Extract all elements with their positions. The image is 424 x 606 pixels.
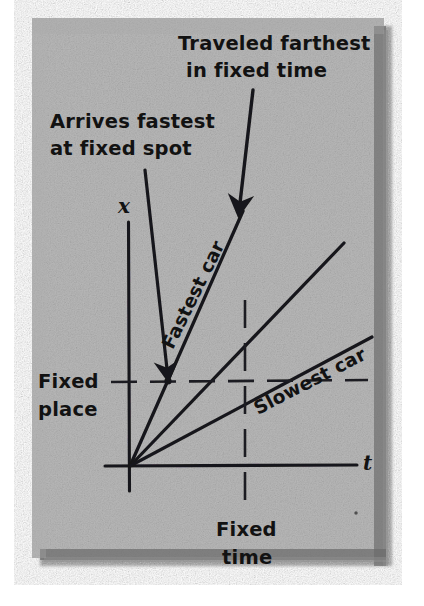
fixed-place-label-line2: place — [38, 398, 98, 421]
annotation-arrives-fastest-line2: at fixed spot — [50, 137, 192, 160]
arrival-point-marker — [164, 377, 171, 384]
fixed-time-label-line1: Fixed — [216, 518, 277, 541]
figure-root: Traveled farthest in fixed time Arrives … — [0, 0, 424, 606]
annotation-traveled-farthest-line2: in fixed time — [186, 59, 327, 82]
x-axis-label: x — [117, 194, 131, 218]
t-axis-line — [105, 465, 357, 466]
x-axis-line — [129, 222, 130, 491]
t-axis-label: t — [363, 451, 373, 475]
scan-speck — [354, 511, 357, 514]
scanned-sheet — [32, 18, 388, 566]
annotation-traveled-farthest-line1: Traveled farthest — [178, 32, 371, 55]
annotation-arrives-fastest-line1: Arrives fastest — [50, 110, 215, 133]
fixed-time-label-line2: time — [222, 546, 272, 569]
fixed-place-label-line1: Fixed — [38, 370, 99, 393]
spacetime-diagram: Traveled farthest in fixed time Arrives … — [0, 0, 424, 606]
